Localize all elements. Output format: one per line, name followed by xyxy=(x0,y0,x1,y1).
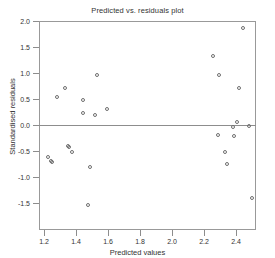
x-axis-tick xyxy=(44,230,45,236)
y-axis-tick-label: 0.0 xyxy=(0,122,30,129)
y-axis-tick-label: 1.0 xyxy=(0,70,30,77)
data-point xyxy=(211,54,215,58)
data-point xyxy=(223,150,227,154)
data-point xyxy=(88,165,92,169)
data-point xyxy=(250,196,254,200)
x-axis-tick xyxy=(76,230,77,236)
x-axis-tick xyxy=(204,230,205,236)
data-point xyxy=(225,162,229,166)
y-axis-tick-label: -1.0 xyxy=(0,174,30,181)
data-point xyxy=(95,73,99,77)
data-point xyxy=(232,134,236,138)
x-axis-tick xyxy=(172,230,173,236)
zero-reference-line xyxy=(39,125,256,126)
data-point xyxy=(55,95,59,99)
x-axis-tick xyxy=(140,230,141,236)
data-point xyxy=(235,120,239,124)
data-point xyxy=(105,107,109,111)
chart-title: Predicted vs. residuals plot xyxy=(0,6,275,15)
data-point xyxy=(67,145,71,149)
data-point xyxy=(50,160,54,164)
y-axis-tick-label: 0.5 xyxy=(0,96,30,103)
x-axis-tick xyxy=(108,230,109,236)
y-axis-tick-label: -1.5 xyxy=(0,200,30,207)
data-point xyxy=(63,86,67,90)
y-axis-tick-label: 2.0 xyxy=(0,18,30,25)
x-axis-tick xyxy=(236,230,237,236)
data-point xyxy=(70,150,74,154)
x-axis-label: Predicted values xyxy=(0,248,275,257)
scatter-plot-figure: Predicted vs. residuals plot Standardise… xyxy=(0,0,275,258)
y-axis-tick-label: -0.5 xyxy=(0,148,30,155)
data-point xyxy=(247,124,251,128)
y-axis-tick-label: 1.5 xyxy=(0,44,30,51)
data-point xyxy=(231,125,235,129)
x-axis-tick-label: 2.4 xyxy=(216,238,256,245)
data-point xyxy=(216,133,220,137)
